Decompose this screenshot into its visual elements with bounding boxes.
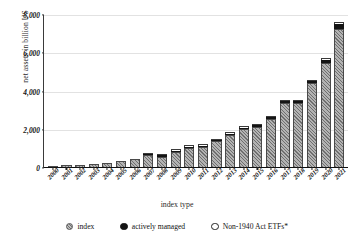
x-axis-label-slot: 2018 — [291, 170, 305, 198]
stacked-bar — [321, 58, 331, 167]
bar-column[interactable] — [169, 15, 183, 167]
stacked-bar — [266, 116, 276, 167]
bar-column[interactable] — [210, 15, 224, 167]
bar-column[interactable] — [278, 15, 292, 167]
x-axis-label-slot: 2002 — [72, 170, 86, 198]
bar-column[interactable] — [182, 15, 196, 167]
stacked-bar — [239, 126, 249, 167]
stacked-bar — [280, 100, 290, 167]
stacked-bar — [184, 145, 194, 167]
bar-column[interactable] — [332, 15, 346, 167]
bar-segment-index — [280, 103, 290, 167]
legend-label: Non-1940 Act ETFs* — [223, 222, 288, 231]
x-axis-label-slot: 2006 — [127, 170, 141, 198]
bar-segment-index — [184, 148, 194, 167]
bar-column[interactable] — [305, 15, 319, 167]
x-axis-label-slot: 2001 — [59, 170, 73, 198]
bar-segment-index — [334, 29, 344, 167]
stacked-bar — [171, 149, 181, 167]
stacked-bar — [252, 124, 262, 167]
x-axis-label-slot: 2013 — [223, 170, 237, 198]
chart-legend: indexactively managedNon-1940 Act ETFs* — [0, 222, 354, 231]
x-axis-label-slot: 2012 — [209, 170, 223, 198]
outline-circle-icon — [211, 223, 219, 231]
filled-circle-icon — [120, 223, 128, 231]
plot-area: 02,0004,0006,0008,000 — [43, 15, 348, 168]
x-axis-tick-labels: 2000200120022003200420052006200720082009… — [43, 170, 348, 198]
legend-item[interactable]: index — [66, 222, 94, 231]
bar-segment-index — [307, 83, 317, 167]
stacked-bar — [130, 159, 140, 167]
x-axis-label-slot: 2016 — [264, 170, 278, 198]
bar-chart: net assets in billion US 02,0004,0006,00… — [0, 0, 354, 246]
stacked-bar — [211, 139, 221, 167]
x-axis-label-slot: 2017 — [278, 170, 292, 198]
x-axis-label-slot: 2021 — [332, 170, 346, 198]
x-axis-label-slot: 2010 — [182, 170, 196, 198]
stacked-bar — [307, 80, 317, 167]
bar-series-group — [44, 15, 348, 167]
y-axis-tick-label: 0 — [36, 164, 40, 173]
bar-segment-index — [321, 63, 331, 167]
bar-column[interactable] — [114, 15, 128, 167]
bar-column[interactable] — [141, 15, 155, 167]
y-axis-tick-label: 8,000 — [23, 11, 40, 20]
stacked-bar — [334, 22, 344, 167]
bar-segment-index — [157, 157, 167, 167]
bar-segment-index — [225, 135, 235, 167]
x-axis-title: index type — [0, 200, 354, 209]
y-axis-tick-mark — [42, 167, 45, 168]
bar-segment-index — [239, 129, 249, 167]
stacked-bar — [198, 144, 208, 167]
y-axis-tick-label: 6,000 — [23, 49, 40, 58]
bar-column[interactable] — [87, 15, 101, 167]
bar-column[interactable] — [128, 15, 142, 167]
bar-column[interactable] — [237, 15, 251, 167]
x-axis-tick-label: 2021 — [333, 166, 347, 180]
x-axis-label-slot: 2011 — [196, 170, 210, 198]
bar-segment-index — [211, 141, 221, 167]
x-axis-label-slot: 2019 — [305, 170, 319, 198]
bar-column[interactable] — [60, 15, 74, 167]
bar-segment-index — [198, 147, 208, 167]
bar-column[interactable] — [251, 15, 265, 167]
legend-label: index — [77, 222, 94, 231]
bar-column[interactable] — [292, 15, 306, 167]
x-axis-label-slot: 2000 — [45, 170, 59, 198]
bar-column[interactable] — [101, 15, 115, 167]
x-axis-label-slot: 2009 — [168, 170, 182, 198]
legend-label: actively managed — [132, 222, 185, 231]
bar-column[interactable] — [73, 15, 87, 167]
legend-item[interactable]: actively managed — [120, 222, 185, 231]
x-axis-label-slot: 2020 — [319, 170, 333, 198]
x-axis-label-slot: 2015 — [250, 170, 264, 198]
bar-column[interactable] — [196, 15, 210, 167]
bar-column[interactable] — [155, 15, 169, 167]
hatched-circle-icon — [66, 223, 74, 231]
x-axis-tick-label: 2011 — [196, 166, 210, 180]
stacked-bar — [225, 132, 235, 167]
x-axis-label-slot: 2004 — [100, 170, 114, 198]
bar-column[interactable] — [223, 15, 237, 167]
stacked-bar — [157, 154, 167, 167]
stacked-bar — [143, 153, 153, 167]
x-axis-label-slot: 2008 — [155, 170, 169, 198]
legend-item[interactable]: Non-1940 Act ETFs* — [211, 222, 288, 231]
bar-column[interactable] — [46, 15, 60, 167]
bar-segment-index — [252, 127, 262, 167]
stacked-bar — [293, 100, 303, 167]
bar-segment-index — [143, 155, 153, 167]
bar-column[interactable] — [319, 15, 333, 167]
x-axis-label-slot: 2003 — [86, 170, 100, 198]
y-axis-tick-label: 4,000 — [23, 87, 40, 96]
x-axis-label-slot: 2005 — [113, 170, 127, 198]
x-axis-label-slot: 2007 — [141, 170, 155, 198]
bar-segment-index — [266, 119, 276, 167]
bar-segment-index — [171, 152, 181, 167]
x-axis-label-slot: 2014 — [237, 170, 251, 198]
bar-segment-index — [293, 103, 303, 167]
bar-column[interactable] — [264, 15, 278, 167]
bar-segment-index — [130, 159, 140, 167]
y-axis-tick-label: 2,000 — [23, 125, 40, 134]
